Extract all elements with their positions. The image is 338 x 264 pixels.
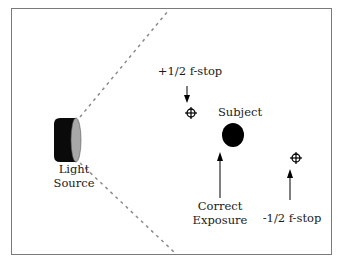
light-source-icon — [54, 118, 81, 162]
minus-half-stop-label: -1/2 f-stop — [252, 211, 332, 225]
plus-half-stop-label: +1/2 f-stop — [150, 64, 230, 78]
subject-label: Subject — [210, 105, 270, 119]
arrow-icon — [287, 169, 293, 200]
light-beam-lines — [80, 11, 174, 252]
light-source-label-line1: Light — [52, 162, 96, 176]
correct-exposure-label-line1: Correct — [190, 199, 250, 213]
arrow-icon — [217, 152, 223, 198]
correct-exposure-label-line2: Exposure — [190, 213, 250, 227]
correct-exposure-label: Correct Exposure — [190, 199, 250, 227]
crosshair-icon — [185, 107, 197, 119]
light-source-label: Light Source — [52, 162, 96, 190]
light-source-label-line2: Source — [52, 176, 96, 190]
crosshair-icon — [290, 152, 302, 164]
arrow-icon — [184, 86, 190, 103]
subject-circle-icon — [222, 123, 244, 147]
